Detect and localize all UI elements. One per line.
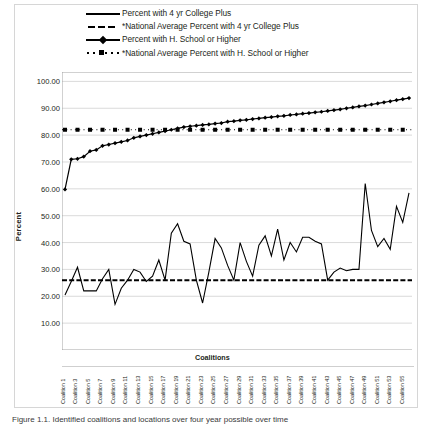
x-tick-label: Coalition 55 [399, 376, 405, 404]
y-axis-ticks: 10.0020.0030.0040.0050.0060.0070.0080.00… [18, 72, 60, 350]
x-tick-label: Coalition 13 [135, 376, 141, 404]
data-point-marker [63, 187, 67, 191]
data-point-marker [144, 133, 148, 137]
line-dotted-marker-icon [86, 47, 120, 59]
data-point-marker [76, 128, 80, 132]
x-tick-label: Coalition 39 [298, 376, 304, 404]
x-tick-label: Coalition 5 [85, 379, 91, 404]
data-point-marker [388, 99, 392, 103]
data-point-marker [138, 128, 142, 132]
x-tick-label: Coalition 37 [286, 376, 292, 404]
x-tick-label: Coalition 53 [386, 376, 392, 404]
data-point-marker [363, 103, 367, 107]
data-point-marker [194, 124, 198, 128]
data-point-marker [326, 109, 330, 113]
data-point-marker [244, 118, 248, 122]
data-point-marker [182, 125, 186, 129]
y-tick-label: 60.00 [22, 184, 60, 193]
data-point-marker [126, 128, 130, 132]
data-point-marker [151, 128, 155, 132]
data-point-marker [88, 128, 92, 132]
data-point-marker [307, 111, 311, 115]
data-point-marker [401, 128, 405, 132]
x-tick-label: Coalition 27 [223, 376, 229, 404]
data-point-marker [301, 128, 305, 132]
y-tick-label: 50.00 [22, 211, 60, 220]
y-tick-label: 100.00 [22, 77, 60, 86]
chart-legend: Percent with 4 yr College Plus *National… [86, 7, 386, 60]
legend-item-highschool: Percent with H. School or Higher [86, 33, 386, 46]
data-point-marker [288, 113, 292, 117]
data-point-marker [225, 120, 229, 124]
x-tick-label: Coalition 47 [349, 376, 355, 404]
data-point-marker [188, 128, 192, 132]
data-point-marker [326, 128, 330, 132]
data-point-marker [351, 105, 355, 109]
data-point-marker [313, 128, 317, 132]
data-point-marker [376, 101, 380, 105]
data-point-marker [101, 128, 105, 132]
data-point-marker [276, 114, 280, 118]
x-tick-label: Coalition 29 [236, 376, 242, 404]
y-tick-label: 90.00 [22, 104, 60, 113]
chart-svg [62, 72, 412, 350]
data-point-marker [226, 128, 230, 132]
data-point-marker [75, 157, 79, 161]
x-tick-label: Coalition 31 [248, 376, 254, 404]
data-point-marker [338, 107, 342, 111]
line-solid-icon [86, 8, 120, 20]
data-point-marker [176, 128, 180, 132]
legend-label: *National Average Percent with 4 yr Coll… [122, 22, 299, 31]
legend-item-college-national: *National Average Percent with 4 yr Coll… [86, 20, 386, 33]
data-point-marker [376, 128, 380, 132]
line-solid-marker-icon [86, 34, 120, 46]
data-point-marker [294, 112, 298, 116]
data-point-marker [69, 157, 73, 161]
data-point-marker [288, 128, 292, 132]
data-point-marker [251, 128, 255, 132]
data-point-marker [382, 100, 386, 104]
figure-container: Percent with 4 yr College Plus *National… [0, 0, 433, 425]
data-point-marker [282, 114, 286, 118]
data-point-marker [219, 121, 223, 125]
axes [62, 72, 412, 350]
data-point-marker [213, 121, 217, 125]
data-point-marker [213, 128, 217, 132]
figure-caption: Figure 1.1. Identified coalitions and lo… [12, 415, 432, 424]
legend-item-highschool-national: *National Average Percent with H. School… [86, 47, 386, 60]
data-point-marker [188, 124, 192, 128]
data-point-marker [125, 138, 129, 142]
x-tick-label: Coalition 19 [173, 376, 179, 404]
data-point-marker [269, 115, 273, 119]
x-tick-label: Coalition 17 [160, 376, 166, 404]
legend-label: Percent with 4 yr College Plus [122, 9, 231, 18]
legend-label: Percent with H. School or Higher [122, 35, 241, 44]
data-point-marker [201, 128, 205, 132]
data-point-marker [107, 142, 111, 146]
x-tick-label: Coalition 9 [110, 379, 116, 404]
x-tick-label: Coalition 25 [210, 376, 216, 404]
data-point-marker [200, 123, 204, 127]
x-tick-label: Coalition 1 [60, 379, 66, 404]
data-point-marker [113, 128, 117, 132]
data-point-marker [232, 119, 236, 123]
data-point-marker [257, 116, 261, 120]
data-point-marker [363, 128, 367, 132]
x-tick-label: Coalition 3 [72, 379, 78, 404]
y-tick-label: 40.00 [22, 238, 60, 247]
data-point-marker [388, 128, 392, 132]
data-point-marker [319, 110, 323, 114]
y-tick-label: 20.00 [22, 292, 60, 301]
data-point-marker [251, 117, 255, 121]
data-point-marker [263, 116, 267, 120]
x-tick-label: Coalition 23 [198, 376, 204, 404]
series-line [65, 183, 409, 304]
data-point-marker [338, 128, 342, 132]
data-point-marker [238, 118, 242, 122]
data-point-marker [401, 97, 405, 101]
y-tick-label: 10.00 [22, 319, 60, 328]
data-point-marker [351, 128, 355, 132]
line-dashed-icon [86, 21, 120, 33]
data-point-marker [313, 110, 317, 114]
x-axis-ticks: Coalition 1Coalition 3Coalition 5Coaliti… [62, 352, 418, 404]
